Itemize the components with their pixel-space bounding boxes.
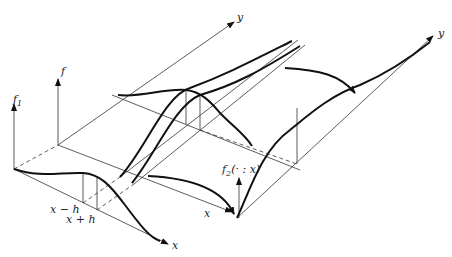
y-left-label: y: [237, 12, 243, 23]
x-bottom-label: x: [172, 240, 178, 251]
transfer-arc-upper: [285, 68, 355, 93]
slice-density-curve: [118, 90, 252, 146]
transfer-curve-lower: [148, 176, 234, 214]
y-axis-right: [237, 36, 433, 218]
base-dashed-link: [14, 145, 58, 169]
f1-label: f1: [13, 94, 22, 108]
guide-line-x-plus-h: [97, 184, 134, 210]
x-mid-label: x: [204, 208, 210, 219]
guide-line-x-minus-h: [83, 177, 120, 203]
y-axis-left: [58, 22, 234, 145]
x-axis-bottom: [14, 169, 168, 244]
slice-baseline: [112, 95, 300, 170]
density-diagram: f1 f y y x x x − h x + h f2(· : x): [0, 0, 452, 257]
y-right-label: y: [438, 28, 444, 39]
f2-label: f2(· : x): [222, 164, 260, 178]
surface-ridge-2: [132, 46, 300, 183]
x-plus-h-label: x + h: [66, 214, 96, 225]
f-label: f: [61, 66, 65, 77]
